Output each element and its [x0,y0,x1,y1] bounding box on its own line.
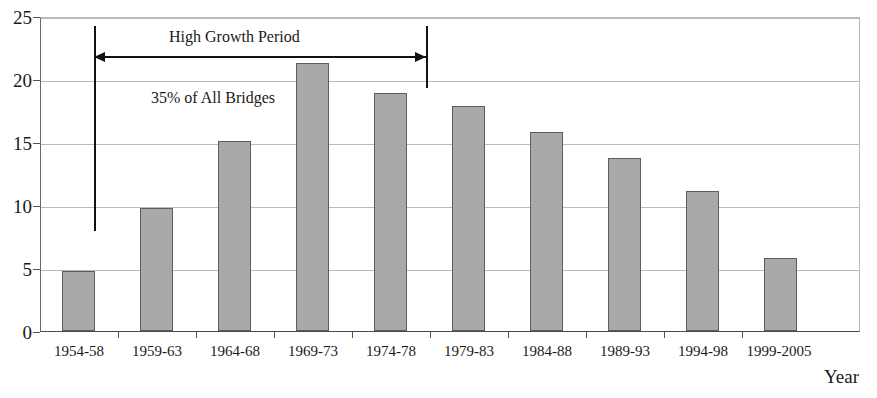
y-tick-mark-20 [33,80,40,81]
y-tick-label-20: 20 [13,71,32,90]
bar-1979-83[interactable] [452,106,485,331]
bar-1969-73[interactable] [296,63,329,331]
bar-1959-63[interactable] [140,208,173,331]
x-tick-mark-4 [430,332,431,338]
x-axis-title: Year [824,366,859,387]
y-tick-label-15: 15 [13,134,32,153]
bar-1999-2005[interactable] [764,258,797,331]
arrow-head-left-icon [94,52,105,62]
y-tick-mark-25 [33,17,40,18]
x-tick-mark-8 [742,332,743,338]
x-tick-mark-7 [664,332,665,338]
y-tick-label-25: 25 [13,8,32,27]
x-tick-mark-2 [274,332,275,338]
bar-1989-93[interactable] [608,158,641,331]
gridline-20 [41,81,859,82]
x-tick-mark-3 [352,332,353,338]
y-tick-label-0: 0 [23,323,33,342]
arrow-head-right-icon [415,52,426,62]
bar-1954-58[interactable] [62,271,95,331]
x-tick-mark-5 [508,332,509,338]
y-tick-mark-0 [33,332,40,333]
bar-1984-88[interactable] [530,132,563,331]
annotation-right-rule [426,26,428,88]
annotation-double-arrow-line [96,56,426,58]
annotation-high-growth-period: High Growth Period [169,28,300,46]
y-tick-label-5: 5 [23,260,33,279]
y-tick-label-10: 10 [13,197,32,216]
y-tick-mark-10 [33,206,40,207]
bar-1994-98[interactable] [686,191,719,331]
plot-area: High Growth Period 35% of All Bridges [40,17,860,332]
y-tick-mark-15 [33,143,40,144]
bar-1964-68[interactable] [218,141,251,331]
x-tick-mark-0 [118,332,119,338]
gridline-25 [41,18,859,19]
x-tick-mark-1 [196,332,197,338]
gridline-15 [41,144,859,145]
x-tick-mark-6 [586,332,587,338]
y-axis: 25 20 15 10 5 0 [0,0,40,398]
y-tick-mark-5 [33,269,40,270]
x-tick-label-1999-2005: 1999-2005 [719,343,839,360]
bar-chart: High Growth Period 35% of All Bridges 25… [0,0,877,398]
bar-1974-78[interactable] [374,93,407,331]
annotation-share-of-all-bridges: 35% of All Bridges [151,89,275,107]
